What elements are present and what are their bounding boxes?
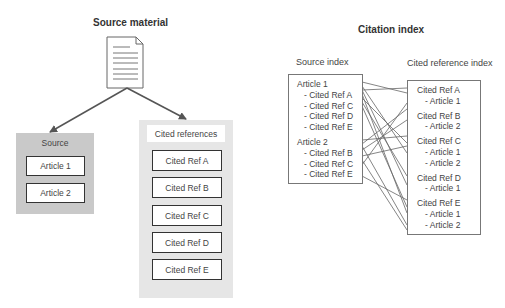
source-article-1[interactable]: Article 1 bbox=[26, 156, 85, 176]
cited-index-line: - Article 2 bbox=[417, 158, 480, 169]
cited-index-line: - Article 2 bbox=[417, 220, 480, 231]
cited-references-panel: Cited references Cited Ref A Cited Ref B… bbox=[139, 120, 233, 298]
source-index-line: - Cited Ref E bbox=[297, 169, 362, 180]
source-index-box: Article 1 - Cited Ref A - Cited Ref C - … bbox=[288, 74, 363, 184]
source-material-title: Source material bbox=[93, 17, 168, 28]
cited-ref-a[interactable]: Cited Ref A bbox=[152, 150, 222, 171]
source-article-2[interactable]: Article 2 bbox=[26, 183, 85, 203]
citation-index-title: Citation index bbox=[358, 24, 424, 35]
cited-index-line: Cited Ref B bbox=[417, 111, 480, 122]
source-index-line: - Cited Ref D bbox=[297, 111, 362, 122]
source-index-label: Source index bbox=[296, 57, 349, 67]
cited-index-box: Cited Ref A - Article 1 Cited Ref B - Ar… bbox=[407, 80, 481, 235]
cited-ref-d[interactable]: Cited Ref D bbox=[152, 232, 222, 253]
cited-ref-c[interactable]: Cited Ref C bbox=[152, 205, 222, 226]
source-index-line: Article 1 bbox=[297, 79, 362, 90]
citation-links bbox=[362, 82, 407, 230]
source-index-line: Article 2 bbox=[297, 137, 362, 148]
source-panel-label: Source bbox=[16, 138, 94, 148]
document-icon bbox=[107, 37, 143, 88]
cited-index-line: - Article 1 bbox=[417, 183, 480, 194]
arrow-to-source bbox=[50, 88, 127, 132]
source-panel: Source Article 1 Article 2 bbox=[16, 133, 94, 214]
cited-index-line: - Article 1 bbox=[417, 209, 480, 220]
source-index-line: - Cited Ref B bbox=[297, 148, 362, 159]
cited-index-line: - Article 1 bbox=[417, 147, 480, 158]
cited-ref-b[interactable]: Cited Ref B bbox=[152, 177, 222, 198]
source-index-line: - Cited Ref C bbox=[297, 159, 362, 170]
arrow-to-cited bbox=[127, 88, 186, 119]
cited-index-line: Cited Ref A bbox=[417, 85, 480, 96]
cited-index-line: - Article 2 bbox=[417, 121, 480, 132]
cited-references-label: Cited references bbox=[147, 129, 225, 139]
cited-index-label: Cited reference index bbox=[407, 58, 493, 68]
source-index-line: - Cited Ref A bbox=[297, 90, 362, 101]
cited-index-line: Cited Ref E bbox=[417, 198, 480, 209]
cited-index-line: Cited Ref C bbox=[417, 136, 480, 147]
cited-index-line: Cited Ref D bbox=[417, 173, 480, 184]
cited-references-header: Cited references bbox=[147, 125, 225, 142]
source-index-line: - Cited Ref E bbox=[297, 122, 362, 133]
source-index-line: - Cited Ref C bbox=[297, 101, 362, 112]
cited-index-line: - Article 1 bbox=[417, 96, 480, 107]
cited-ref-e[interactable]: Cited Ref E bbox=[152, 259, 222, 280]
